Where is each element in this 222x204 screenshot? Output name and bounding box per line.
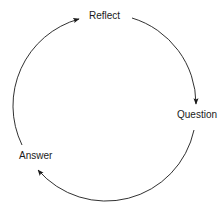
- node-answer: Answer: [19, 150, 52, 161]
- node-question: Question: [177, 109, 217, 120]
- arrow-question-to-answer: [38, 130, 194, 201]
- cycle-diagram: [0, 0, 222, 204]
- node-reflect: Reflect: [89, 10, 120, 21]
- arrow-reflect-to-question: [132, 18, 196, 104]
- arrow-answer-to-reflect: [13, 19, 79, 145]
